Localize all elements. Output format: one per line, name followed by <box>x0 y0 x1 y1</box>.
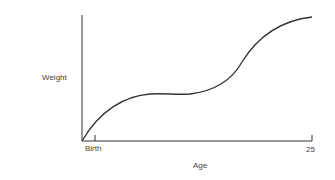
x-tick-label-birth: Birth <box>85 144 101 153</box>
x-tick-label-25: 25 <box>306 145 315 154</box>
weight-curve <box>82 17 312 141</box>
growth-chart <box>0 0 335 180</box>
x-axis-label: Age <box>193 161 207 170</box>
y-axis-label: Weight <box>42 73 67 82</box>
